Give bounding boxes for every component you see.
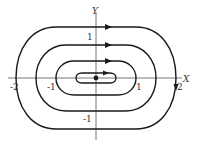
x-tick-label: -2	[10, 82, 19, 92]
phase-portrait-diagram: X Y -2 -1 1 2 1 -1	[0, 0, 199, 148]
arrow-icon	[105, 24, 112, 30]
x-axis-label: X	[182, 74, 190, 84]
arrow-icon	[105, 42, 112, 48]
y-tick-label: -1	[83, 114, 92, 124]
diagram-svg: X Y -2 -1 1 2 1 -1	[0, 0, 199, 148]
x-tick-label: 2	[177, 82, 183, 92]
arrow-icon	[103, 71, 109, 76]
equilibrium-dot	[94, 76, 99, 81]
x-tick-label: -1	[47, 82, 56, 92]
x-tick-label: 1	[136, 82, 142, 92]
y-axis-label: Y	[92, 6, 99, 16]
y-tick-label: 1	[87, 32, 93, 42]
arrow-icon	[105, 58, 112, 64]
